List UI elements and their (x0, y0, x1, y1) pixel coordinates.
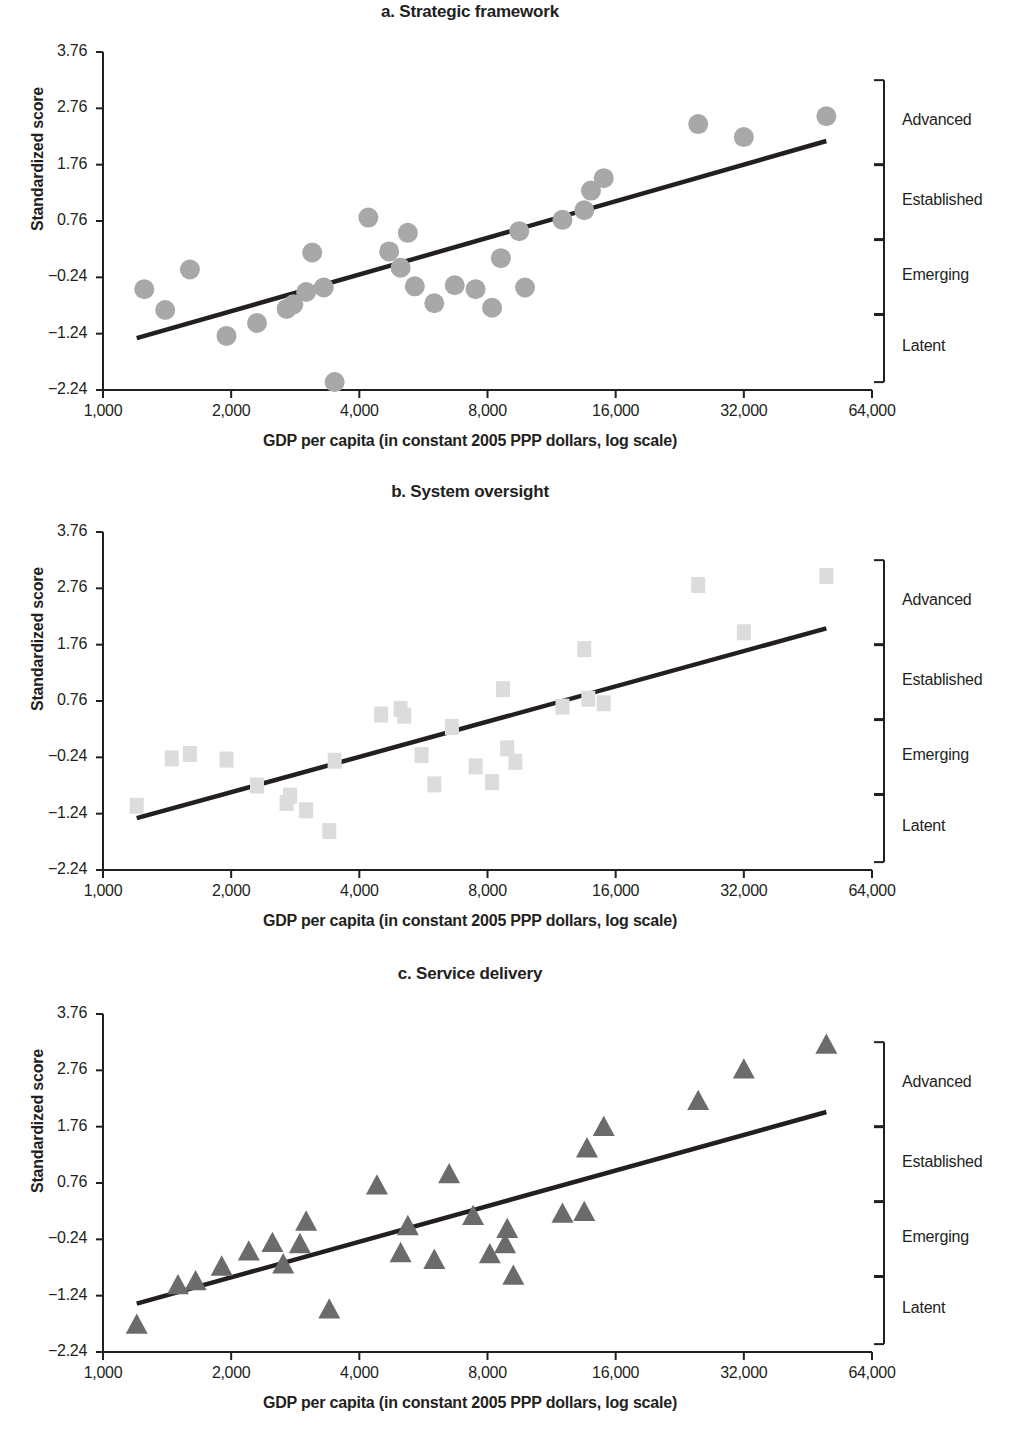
y-tick-label: 1.76 (17, 155, 87, 173)
category-label-emerging: Emerging (902, 746, 969, 764)
data-point (358, 208, 378, 228)
data-point (295, 1210, 317, 1230)
y-tick-label: −0.24 (17, 267, 87, 285)
data-point (515, 277, 535, 297)
data-point (576, 1137, 598, 1157)
category-label-latent: Latent (902, 337, 945, 355)
data-point (445, 275, 465, 295)
category-label-established: Established (902, 671, 983, 689)
data-point (574, 200, 594, 220)
data-point (397, 708, 411, 724)
data-point (247, 313, 267, 333)
data-point (597, 695, 611, 711)
panel-system-oversight: b. System oversight Standardized score G… (0, 480, 1011, 960)
data-point (134, 279, 154, 299)
trend-line (137, 1112, 827, 1304)
data-point (167, 1274, 189, 1294)
y-tick-label: −2.24 (17, 860, 87, 878)
x-tick-label: 4,000 (314, 402, 404, 420)
data-point (296, 282, 316, 302)
data-point (733, 1058, 755, 1078)
x-tick-label: 8,000 (443, 882, 533, 900)
x-tick-label: 4,000 (314, 1364, 404, 1382)
data-point (302, 243, 322, 263)
y-tick-label: 0.76 (17, 1173, 87, 1191)
data-point (688, 114, 708, 134)
x-tick-label: 64,000 (827, 402, 917, 420)
data-point (314, 277, 334, 297)
data-point (552, 210, 572, 230)
data-point (438, 1163, 460, 1183)
x-tick-label: 1,000 (58, 882, 148, 900)
data-point (687, 1090, 709, 1110)
data-point (322, 823, 336, 839)
data-point (318, 1298, 340, 1318)
category-label-advanced: Advanced (902, 1073, 972, 1091)
data-point (219, 752, 233, 768)
data-point (289, 1233, 311, 1253)
x-tick-label: 8,000 (443, 1364, 533, 1382)
data-point (423, 1249, 445, 1269)
x-tick-label: 32,000 (699, 402, 789, 420)
data-point (508, 754, 522, 770)
data-point (283, 788, 297, 804)
trend-line (137, 141, 827, 338)
x-tick-label: 32,000 (699, 1364, 789, 1382)
data-point (299, 802, 313, 818)
data-point (216, 326, 236, 346)
data-point (165, 750, 179, 766)
data-point (183, 746, 197, 762)
y-tick-label: 2.76 (17, 578, 87, 596)
data-point (482, 298, 502, 318)
x-tick-label: 2,000 (186, 1364, 276, 1382)
y-tick-label: −1.24 (17, 804, 87, 822)
category-label-emerging: Emerging (902, 266, 969, 284)
data-point (469, 758, 483, 774)
y-tick-label: 1.76 (17, 635, 87, 653)
data-point (551, 1202, 573, 1222)
data-point (405, 276, 425, 296)
category-label-advanced: Advanced (902, 591, 972, 609)
data-point (691, 577, 705, 593)
y-tick-label: 0.76 (17, 691, 87, 709)
data-point (366, 1174, 388, 1194)
data-point (816, 106, 836, 126)
data-point (555, 699, 569, 715)
x-tick-label: 2,000 (186, 402, 276, 420)
x-tick-label: 8,000 (443, 402, 533, 420)
y-tick-label: −2.24 (17, 1342, 87, 1360)
x-tick-label: 64,000 (827, 1364, 917, 1382)
category-label-emerging: Emerging (902, 1228, 969, 1246)
data-point (496, 681, 510, 697)
data-point (180, 259, 200, 279)
data-point (415, 747, 429, 763)
data-point (427, 776, 441, 792)
x-tick-label: 64,000 (827, 882, 917, 900)
data-point (328, 753, 342, 769)
data-point (374, 707, 388, 723)
data-point (737, 624, 751, 640)
data-point (819, 568, 833, 584)
data-point (211, 1255, 233, 1275)
data-point (496, 1218, 518, 1238)
x-tick-label: 2,000 (186, 882, 276, 900)
y-tick-label: 2.76 (17, 98, 87, 116)
data-point (155, 300, 175, 320)
y-tick-label: 3.76 (17, 522, 87, 540)
y-tick-label: −2.24 (17, 380, 87, 398)
category-label-established: Established (902, 191, 983, 209)
y-tick-label: −0.24 (17, 747, 87, 765)
y-tick-label: 1.76 (17, 1117, 87, 1135)
data-point (424, 293, 444, 313)
trend-line (137, 628, 827, 818)
y-tick-label: 2.76 (17, 1060, 87, 1078)
x-tick-label: 16,000 (571, 402, 661, 420)
x-tick-label: 16,000 (571, 1364, 661, 1382)
data-point (185, 1270, 207, 1290)
x-tick-label: 16,000 (571, 882, 661, 900)
data-point (491, 248, 511, 268)
y-tick-label: −1.24 (17, 1286, 87, 1304)
category-label-established: Established (902, 1153, 983, 1171)
category-label-advanced: Advanced (902, 111, 972, 129)
data-point (379, 241, 399, 261)
